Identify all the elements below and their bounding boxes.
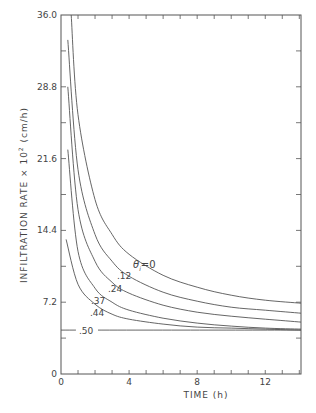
curve-label-037: .37 bbox=[91, 296, 105, 306]
y-tick-label: 21.6 bbox=[37, 154, 57, 164]
curve-label-050: .50 bbox=[79, 326, 94, 336]
curve-label-024: .24 bbox=[108, 284, 123, 294]
x-tick-label: 12 bbox=[260, 377, 271, 387]
y-tick-label: 7.2 bbox=[43, 297, 57, 307]
y-axis-title-main: INFILTRATION RATE × 10 bbox=[19, 151, 29, 283]
curve--i-12 bbox=[68, 40, 301, 313]
theta-equals-zero: =0 bbox=[141, 259, 156, 270]
y-tick-label: 0 bbox=[51, 369, 57, 379]
x-tick-label: 4 bbox=[126, 377, 132, 387]
x-tick-label: 8 bbox=[194, 377, 200, 387]
x-tick-label: 0 bbox=[58, 377, 64, 387]
curve-label-012: .12 bbox=[117, 271, 131, 281]
y-axis-title-units: (cm/h) bbox=[19, 107, 29, 142]
ticks bbox=[61, 15, 301, 374]
plot-frame bbox=[61, 15, 301, 374]
axes bbox=[61, 15, 301, 374]
curve--i-24 bbox=[68, 87, 301, 322]
svg-text:INFILTRATION RATE × 102 (cm/h): INFILTRATION RATE × 102 (cm/h) bbox=[17, 107, 29, 283]
y-axis-title: INFILTRATION RATE × 102 (cm/h) bbox=[17, 107, 29, 283]
infiltration-rate-chart: 0481207.214.421.628.836.0 TIME (h) INFIL… bbox=[0, 0, 316, 413]
y-tick-label: 14.4 bbox=[37, 225, 57, 235]
y-tick-label: 36.0 bbox=[37, 10, 57, 20]
curve-label-044: .44 bbox=[90, 308, 105, 318]
x-axis-title: TIME (h) bbox=[182, 390, 228, 400]
curves bbox=[61, 15, 301, 330]
y-tick-label: 28.8 bbox=[37, 82, 57, 92]
curve--i-0 bbox=[71, 15, 301, 303]
